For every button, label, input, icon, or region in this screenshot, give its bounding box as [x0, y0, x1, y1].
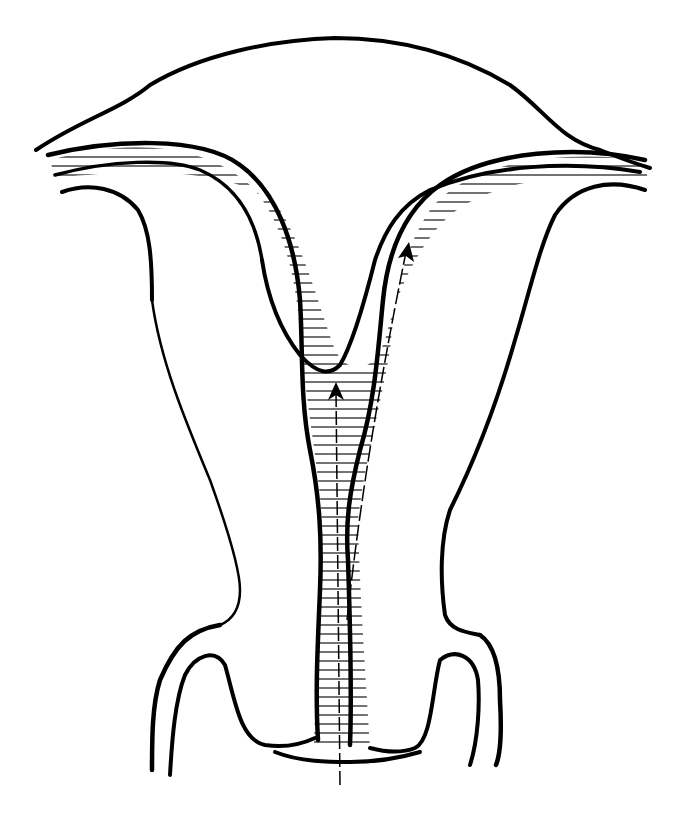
endometrial-cavity-hatching [0, 0, 680, 819]
right-uterine-wall [442, 184, 645, 635]
right-vaginal-fornix-outer [480, 635, 501, 765]
left-uterine-wall-lower [152, 300, 240, 625]
left-uterine-wall [62, 187, 152, 300]
left-vaginal-fornix-outer [152, 625, 220, 770]
uterus-illustration [0, 0, 680, 819]
uterus-diagram [0, 0, 680, 819]
right-vaginal-fornix-inner [370, 654, 479, 765]
